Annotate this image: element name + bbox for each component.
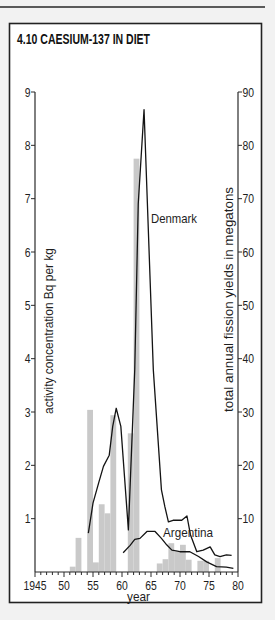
y2-tick-label-80-group: 80 — [243, 138, 255, 152]
y2-tick-label-20: 20 — [243, 458, 255, 472]
bar-1970 — [180, 545, 186, 572]
y2-tick-label-90-group: 90 — [243, 84, 255, 98]
y-tick-label-5: 5 — [25, 298, 31, 312]
y-tick-label-6: 6 — [25, 244, 31, 258]
y2-tick-label-70-group: 70 — [243, 191, 255, 205]
y2-tick-label-10-group: 10 — [243, 511, 255, 525]
bar-1954 — [87, 410, 93, 572]
x-tick-label-1945-group: 1945 — [23, 578, 47, 592]
y2-tick-label-20-group: 20 — [243, 458, 255, 472]
y-tick-label-3: 3 — [25, 404, 31, 418]
y-tick-label-9: 9 — [25, 84, 31, 98]
y-tick-label-2-group: 2 — [25, 458, 31, 472]
y-tick-label-1: 1 — [25, 511, 31, 525]
y-axis-label: activity concentration Bq per kg — [41, 248, 56, 414]
bar-1966 — [157, 563, 163, 572]
y-tick-label-7-group: 7 — [25, 191, 31, 205]
y2-tick-label-30: 30 — [243, 404, 255, 418]
y-tick-label-9-group: 9 — [25, 84, 31, 98]
y2-tick-label-40-group: 40 — [243, 351, 255, 365]
x-tick-label-80: 80 — [232, 578, 244, 592]
x-tick-label-70-group: 70 — [174, 578, 186, 592]
x-tick-label-75-group: 75 — [203, 578, 215, 592]
x-tick-label-70: 70 — [174, 578, 186, 592]
chart-title: 4.10 CAESIUM-137 IN DIET — [17, 31, 150, 47]
y2-tick-label-10: 10 — [243, 511, 255, 525]
x-tick-label-55: 55 — [87, 578, 99, 592]
figure-canvas: 4.10 CAESIUM-137 IN DIET 194550556065707… — [0, 0, 275, 620]
y2-tick-label-50: 50 — [243, 298, 255, 312]
y-tick-label-8-group: 8 — [25, 138, 31, 152]
bar-1971 — [186, 560, 192, 572]
series-label-argentina: Argentina — [163, 525, 214, 540]
y-tick-label-5-group: 5 — [25, 298, 31, 312]
y-tick-label-7: 7 — [25, 191, 31, 205]
y2-tick-label-80: 80 — [243, 138, 255, 152]
bar-1951 — [70, 567, 76, 572]
y2-tick-label-70: 70 — [243, 191, 255, 205]
bar-1955 — [93, 562, 99, 572]
y-tick-label-4-group: 4 — [25, 351, 31, 365]
bar-1956 — [99, 504, 105, 572]
y2-tick-label-40: 40 — [243, 351, 255, 365]
x-tick-label-1945: 1945 — [23, 578, 47, 592]
y2-tick-label-50-group: 50 — [243, 298, 255, 312]
y2-tick-label-60: 60 — [243, 244, 255, 258]
series-label-denmark: Denmark — [151, 211, 197, 226]
y-tick-label-4: 4 — [25, 351, 31, 365]
y2-tick-label-30-group: 30 — [243, 404, 255, 418]
bar-1952 — [76, 538, 82, 572]
y-tick-label-1-group: 1 — [25, 511, 31, 525]
bar-1957 — [105, 513, 111, 572]
y2-tick-label-60-group: 60 — [243, 244, 255, 258]
y2-tick-label-90: 90 — [243, 84, 255, 98]
y-tick-label-2: 2 — [25, 458, 31, 472]
x-axis-label: year — [127, 589, 151, 604]
y-tick-label-3-group: 3 — [25, 404, 31, 418]
bar-1967 — [163, 559, 169, 572]
y2-axis-label: total annual fission yields in megatons — [221, 186, 236, 412]
x-tick-label-50: 50 — [58, 578, 70, 592]
x-tick-label-55-group: 55 — [87, 578, 99, 592]
y-tick-label-8: 8 — [25, 138, 31, 152]
x-tick-label-50-group: 50 — [58, 578, 70, 592]
bar-1973 — [197, 561, 203, 572]
x-tick-label-75: 75 — [203, 578, 215, 592]
x-tick-label-80-group: 80 — [232, 578, 244, 592]
bar-1961 — [128, 433, 134, 572]
bar-1976 — [215, 558, 221, 572]
y-tick-label-6-group: 6 — [25, 244, 31, 258]
bar-1969 — [174, 552, 180, 572]
